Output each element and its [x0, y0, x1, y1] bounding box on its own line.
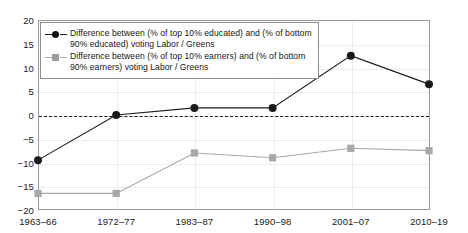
legend-label-educated: Difference between (% of top 10% educate… [70, 28, 312, 49]
legend-item-earners: Difference between (% of top 10% earners… [45, 51, 312, 72]
y-axis-tick-label: 15 [0, 38, 34, 49]
chart-figure: 20151050−5−10−15−20 1963–661972–771983–8… [0, 0, 468, 233]
y-axis-tick-label: −10 [0, 157, 34, 168]
gridline-horizontal [39, 92, 429, 93]
x-axis-tick-label: 1963–66 [19, 216, 57, 227]
legend-marker-square-icon [45, 51, 67, 64]
gridline-vertical [352, 21, 353, 209]
y-axis-tick-label: −5 [0, 133, 34, 144]
legend-label-earners: Difference between (% of top 10% earners… [70, 51, 305, 72]
y-axis-tick-label: 5 [0, 86, 34, 97]
gridline-horizontal [39, 187, 429, 188]
legend-marker-circle-icon [45, 28, 67, 41]
zero-reference-line [39, 116, 429, 117]
y-axis-tick-label: 20 [0, 15, 34, 26]
y-axis-tick-label: −20 [0, 205, 34, 216]
y-axis-tick-label: 0 [0, 110, 34, 121]
legend-item-educated: Difference between (% of top 10% educate… [45, 28, 312, 49]
y-axis-tick-label: −15 [0, 181, 34, 192]
x-axis-tick-label: 1972–77 [97, 216, 135, 227]
gridline-horizontal [39, 164, 429, 165]
y-axis-tick-label: 10 [0, 62, 34, 73]
x-axis-tick-label: 1990–98 [254, 216, 292, 227]
x-axis-tick-label: 2001–07 [332, 216, 370, 227]
x-axis-tick-label: 2010–19 [410, 216, 448, 227]
gridline-horizontal [39, 140, 429, 141]
chart-legend: Difference between (% of top 10% educate… [40, 22, 319, 79]
x-axis-tick-label: 1983–87 [176, 216, 214, 227]
